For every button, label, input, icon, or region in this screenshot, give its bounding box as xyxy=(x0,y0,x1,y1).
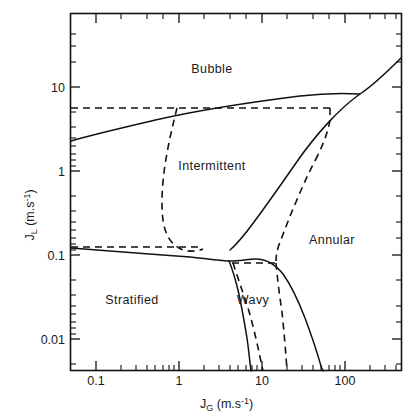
plot-frame xyxy=(71,14,402,371)
region-label-annular: Annular xyxy=(309,233,355,247)
x-axis-top-ticks xyxy=(96,14,396,23)
y-axis-minor-ticks xyxy=(71,34,76,364)
dashed-intermittent-left xyxy=(162,108,203,251)
y-axis-major-ticks xyxy=(71,87,80,339)
svg-text:JL (m.s-1): JL (m.s-1) xyxy=(22,189,39,240)
y-axis-title-units-open: (m.s xyxy=(23,202,37,230)
y-tick-label-10: 10 xyxy=(51,81,65,95)
x-tick-label-1: 1 xyxy=(176,374,183,388)
curve-bubble-intermittent xyxy=(71,93,360,141)
y-tick-label-1: 1 xyxy=(58,165,65,179)
y-tick-label-0-01: 0.01 xyxy=(41,333,65,347)
y-axis-right-ticks xyxy=(392,34,401,364)
x-tick-label-3: 100 xyxy=(335,374,356,388)
flow-regime-map: 0.1 1 10 100 10 1 0.1 0.01 Bubble Interm… xyxy=(0,0,415,418)
x-axis-major-ticks xyxy=(96,361,345,370)
curve-intermittent-annular xyxy=(230,58,401,250)
dashed-annular-descend xyxy=(276,263,287,371)
region-label-stratified: Stratified xyxy=(105,293,158,307)
x-axis-title: JG (m.s-1) xyxy=(200,396,253,413)
x-tick-label-2: 10 xyxy=(255,374,269,388)
x-axis-minor-ticks xyxy=(121,365,396,370)
y-tick-label-0-1: 0.1 xyxy=(48,249,65,263)
y-axis-title-units-close: ) xyxy=(23,189,37,193)
y-axis-title-units-exp: -1 xyxy=(22,194,32,202)
region-label-bubble: Bubble xyxy=(191,62,232,76)
x-tick-label-0: 0.1 xyxy=(87,374,104,388)
x-axis-title-units-exp: -1 xyxy=(241,396,249,406)
y-axis-title: JL (m.s-1) xyxy=(22,189,39,240)
curve-stratified-wavy xyxy=(229,261,251,371)
region-label-intermittent: Intermittent xyxy=(178,159,245,173)
dashed-wavy-left xyxy=(233,263,263,371)
x-axis-title-units-close: ) xyxy=(249,397,253,411)
svg-text:JG (m.s-1): JG (m.s-1) xyxy=(200,396,253,413)
flow-regime-map-svg: 0.1 1 10 100 10 1 0.1 0.01 Bubble Interm… xyxy=(0,0,415,418)
x-axis-title-units-open: (m.s xyxy=(213,397,241,411)
region-label-wavy: Wavy xyxy=(237,293,270,307)
x-axis-title-subscript: G xyxy=(206,403,213,413)
